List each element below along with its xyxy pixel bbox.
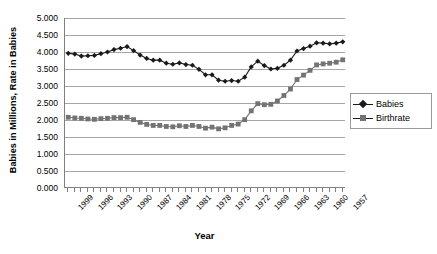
data-point[interactable] xyxy=(229,123,234,128)
data-point[interactable] xyxy=(268,66,273,71)
data-point[interactable] xyxy=(197,124,202,129)
x-axis-tick-label: 1981 xyxy=(194,193,213,212)
data-point[interactable] xyxy=(223,125,228,130)
data-point[interactable] xyxy=(79,53,84,58)
data-point[interactable] xyxy=(144,122,149,127)
x-axis-tick xyxy=(178,188,179,192)
y-axis-title: Babies in Millions, Rate in Babies xyxy=(2,0,24,200)
data-point[interactable] xyxy=(157,123,162,128)
data-point[interactable] xyxy=(203,126,208,131)
data-point[interactable] xyxy=(125,115,130,120)
data-point[interactable] xyxy=(301,46,306,51)
x-axis-tick xyxy=(120,188,121,192)
data-point[interactable] xyxy=(190,63,195,68)
data-point[interactable] xyxy=(327,41,332,46)
x-axis-tick xyxy=(80,188,81,192)
data-point[interactable] xyxy=(157,58,162,63)
data-point[interactable] xyxy=(242,117,247,122)
data-point[interactable] xyxy=(275,99,280,104)
data-point[interactable] xyxy=(170,62,175,67)
data-point[interactable] xyxy=(236,122,241,127)
data-point[interactable] xyxy=(301,73,306,78)
data-point[interactable] xyxy=(85,53,90,58)
data-point[interactable] xyxy=(314,63,319,68)
legend-item-babies[interactable]: Babies xyxy=(353,97,428,111)
x-axis-tick xyxy=(205,188,206,192)
x-axis-tick xyxy=(211,188,212,192)
data-point[interactable] xyxy=(340,57,345,62)
plot-area xyxy=(64,18,345,188)
data-point[interactable] xyxy=(151,123,156,128)
data-point[interactable] xyxy=(72,116,77,121)
data-point[interactable] xyxy=(282,93,287,98)
y-axis-tick-label: 5.000 xyxy=(37,14,58,23)
x-axis-tick xyxy=(198,188,199,192)
y-axis-tick-label: 0.500 xyxy=(37,167,58,176)
data-point[interactable] xyxy=(190,123,195,128)
data-point[interactable] xyxy=(98,51,103,56)
data-point[interactable] xyxy=(183,62,188,67)
series-layer xyxy=(65,18,346,188)
data-point[interactable] xyxy=(307,44,312,49)
data-point[interactable] xyxy=(223,79,228,84)
data-point[interactable] xyxy=(236,79,241,84)
data-point[interactable] xyxy=(164,61,169,66)
data-point[interactable] xyxy=(105,116,110,121)
data-point[interactable] xyxy=(340,39,345,44)
data-point[interactable] xyxy=(177,123,182,128)
data-point[interactable] xyxy=(262,102,267,107)
data-point[interactable] xyxy=(255,101,260,106)
x-axis-tick xyxy=(126,188,127,192)
data-point[interactable] xyxy=(164,124,169,129)
data-point[interactable] xyxy=(151,58,156,63)
data-point[interactable] xyxy=(314,40,319,45)
x-axis-tick xyxy=(185,188,186,192)
data-point[interactable] xyxy=(72,51,77,56)
data-point[interactable] xyxy=(295,77,300,82)
data-point[interactable] xyxy=(242,75,247,80)
x-axis-tick-label: 1999 xyxy=(76,193,95,212)
legend-item-birthrate[interactable]: Birthrate xyxy=(353,111,428,125)
data-point[interactable] xyxy=(131,117,136,122)
data-point[interactable] xyxy=(210,125,215,130)
data-point[interactable] xyxy=(170,124,175,129)
data-point[interactable] xyxy=(268,102,273,107)
data-point[interactable] xyxy=(183,124,188,129)
x-axis-tick xyxy=(67,188,68,192)
data-point[interactable] xyxy=(92,53,97,58)
data-point[interactable] xyxy=(118,46,123,51)
data-point[interactable] xyxy=(177,60,182,65)
data-point[interactable] xyxy=(229,78,234,83)
square-marker-icon xyxy=(353,113,373,123)
data-point[interactable] xyxy=(79,116,84,121)
data-point[interactable] xyxy=(66,51,71,56)
data-point[interactable] xyxy=(288,87,293,92)
x-axis-tick xyxy=(165,188,166,192)
x-axis-tick xyxy=(289,188,290,192)
x-axis-tick-label: 1966 xyxy=(292,193,311,212)
data-point[interactable] xyxy=(118,115,123,120)
data-point[interactable] xyxy=(334,41,339,46)
data-point[interactable] xyxy=(334,60,339,65)
data-point[interactable] xyxy=(124,44,129,49)
data-point[interactable] xyxy=(275,66,280,71)
y-axis-tick-label: 2.000 xyxy=(37,116,58,125)
data-point[interactable] xyxy=(144,56,149,61)
data-point[interactable] xyxy=(249,108,254,113)
data-point[interactable] xyxy=(112,115,117,120)
data-point[interactable] xyxy=(216,126,221,131)
data-point[interactable] xyxy=(308,68,313,73)
x-axis-tick-labels: 1999199619931990198719841981197819751972… xyxy=(0,193,437,227)
data-point[interactable] xyxy=(66,115,71,120)
data-point[interactable] xyxy=(105,49,110,54)
data-point[interactable] xyxy=(92,117,97,122)
y-axis-tick-label: 3.500 xyxy=(37,65,58,74)
data-point[interactable] xyxy=(111,47,116,52)
data-point[interactable] xyxy=(321,62,326,67)
data-point[interactable] xyxy=(99,116,104,121)
data-point[interactable] xyxy=(85,117,90,122)
x-axis-tick-label: 1969 xyxy=(273,193,292,212)
data-point[interactable] xyxy=(138,120,143,125)
data-point[interactable] xyxy=(327,61,332,66)
data-point[interactable] xyxy=(321,41,326,46)
